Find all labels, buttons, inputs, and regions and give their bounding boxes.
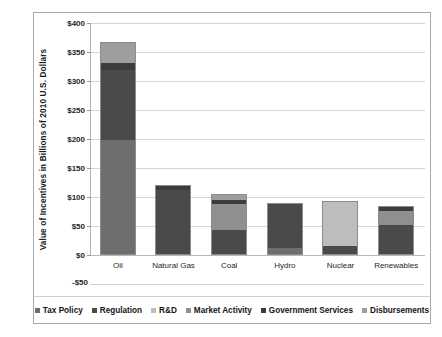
y-tick-label-400: $400 (47, 19, 85, 28)
legend-item-r-d[interactable]: R&D (151, 306, 177, 315)
legend-item-market-activity[interactable]: Market Activity (186, 306, 252, 315)
bar-segment-government-services (101, 63, 135, 71)
bar-slot-coal (201, 23, 257, 255)
bar-segment-regulation (323, 246, 357, 255)
bar-slot-natural-gas (146, 23, 202, 255)
stacked-bar-chart: Value of Incentives in Billions of 2010 … (0, 0, 442, 337)
legend-item-disbursements[interactable]: Disbursements (362, 306, 429, 315)
x-axis-label-renewables: Renewables (368, 261, 424, 270)
bar-segment-market-activity (379, 211, 413, 226)
bar-slot-renewables (368, 23, 424, 255)
x-axis-category-labels: OilNatural GasCoalHydroNuclearRenewables (90, 256, 424, 285)
x-axis-label-natural-gas: Natural Gas (146, 261, 202, 270)
bars-layer (90, 23, 424, 255)
legend-swatch-icon (35, 308, 40, 313)
chart-legend: Tax PolicyRegulationR&DMarket ActivityGo… (34, 296, 430, 323)
legend-label: Market Activity (194, 306, 252, 315)
bar-slot-oil (90, 23, 146, 255)
bar-segment-disbursements (101, 43, 135, 63)
legend-swatch-icon (186, 308, 191, 313)
y-tick-label-neg50: -$50 (52, 278, 88, 287)
legend-swatch-icon (151, 308, 156, 313)
legend-item-tax-policy[interactable]: Tax Policy (35, 306, 83, 315)
bar-natural-gas[interactable] (155, 185, 191, 255)
bar-segment-r-d (323, 202, 357, 246)
bar-segment-regulation (379, 225, 413, 255)
bar-segment-regulation (268, 204, 302, 249)
y-tick-label-50: $50 (47, 222, 85, 231)
legend-label: Tax Policy (43, 306, 83, 315)
y-tick-label-350: $350 (47, 48, 85, 57)
bar-hydro[interactable] (267, 203, 303, 255)
legend-item-regulation[interactable]: Regulation (92, 306, 142, 315)
y-tick-label-100: $100 (47, 193, 85, 202)
y-tick-label-0: $0 (47, 251, 85, 260)
legend-label: Regulation (100, 306, 142, 315)
bar-renewables[interactable] (378, 206, 414, 255)
y-axis-title: Value of Incentives in Billions of 2010 … (36, 18, 52, 280)
y-tick-label-150: $150 (47, 164, 85, 173)
y-tick-label-300: $300 (47, 77, 85, 86)
bar-segment-tax-policy (268, 248, 302, 255)
bar-coal[interactable] (211, 194, 247, 255)
bar-segment-regulation (212, 230, 246, 255)
legend-item-government-services[interactable]: Government Services (261, 306, 353, 315)
legend-swatch-icon (362, 308, 367, 313)
y-tick-label-200: $200 (47, 135, 85, 144)
y-tick-label-250: $250 (47, 106, 85, 115)
x-axis-label-coal: Coal (201, 261, 257, 270)
bar-segment-regulation (156, 190, 190, 255)
bar-slot-hydro (257, 23, 313, 255)
legend-swatch-icon (92, 308, 97, 313)
x-axis-label-hydro: Hydro (257, 261, 313, 270)
legend-label: Disbursements (370, 306, 429, 315)
bar-oil[interactable] (100, 42, 136, 255)
legend-label: Government Services (269, 306, 353, 315)
bar-nuclear[interactable] (322, 201, 358, 255)
x-axis-label-nuclear: Nuclear (313, 261, 369, 270)
x-axis-label-oil: Oil (90, 261, 146, 270)
bar-segment-regulation (101, 70, 135, 140)
negative-gridline (90, 284, 424, 285)
bar-segment-tax-policy (101, 140, 135, 255)
legend-swatch-icon (261, 308, 266, 313)
bar-slot-nuclear (313, 23, 369, 255)
bar-segment-market-activity (212, 204, 246, 230)
legend-label: R&D (159, 306, 177, 315)
